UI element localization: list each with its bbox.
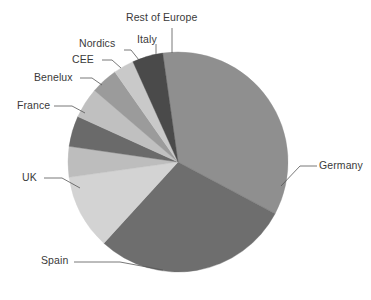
- pie-label-rest-of-europe: Rest of Europe: [126, 11, 197, 23]
- leader-line-nordics: [124, 50, 139, 60]
- leader-line-benelux: [80, 78, 102, 85]
- pie-label-spain: Spain: [41, 254, 68, 266]
- pie-label-france: France: [17, 99, 50, 111]
- leader-line-cee: [102, 60, 121, 68]
- pie-slices: [68, 52, 288, 272]
- pie-label-benelux: Benelux: [34, 71, 73, 83]
- pie-label-cee: CEE: [72, 53, 94, 65]
- pie-chart: Germany Spain UK France Benelux CEE Nord…: [0, 0, 371, 300]
- pie-label-nordics: Nordics: [79, 37, 115, 49]
- pie-label-italy: Italy: [137, 33, 157, 45]
- pie-label-germany: Germany: [319, 159, 363, 171]
- pie-label-uk: UK: [22, 171, 37, 183]
